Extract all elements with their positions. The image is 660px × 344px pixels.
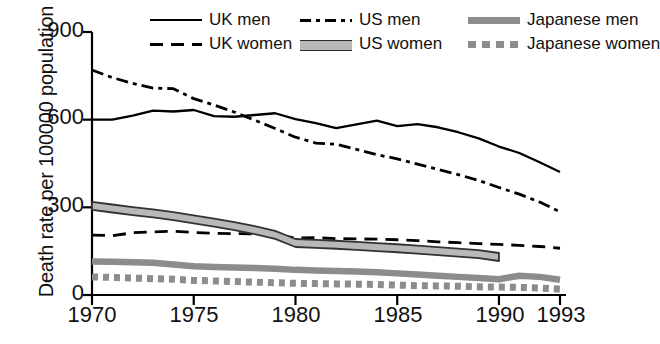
series-us-women: [92, 202, 499, 261]
series-uk-men: [92, 110, 560, 172]
series-layer: [92, 70, 560, 289]
series-us-men: [92, 70, 560, 212]
